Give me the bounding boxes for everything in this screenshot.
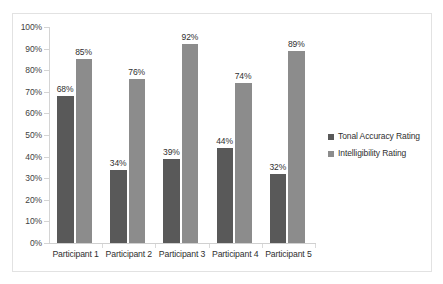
legend-label-intelligibility: Intelligibility Rating: [338, 149, 406, 158]
bar-value-participant-1-tonal-accuracy: 68%: [51, 85, 79, 94]
plot-area: 68% 85% 34% 76% 39% 92% 44% 74%: [49, 27, 315, 243]
bar-group-participant-2: 34% 76%: [102, 27, 155, 243]
y-axis-label-70: 70%: [0, 88, 42, 97]
y-axis-labels: 100% 90% 80% 70% 60% 50% 40% 30% 20% 10%…: [0, 0, 42, 284]
legend-swatch-icon-intelligibility: [328, 151, 334, 157]
y-axis-label-0: 0%: [0, 239, 42, 248]
y-axis-label-40: 40%: [0, 153, 42, 162]
bar-value-participant-1-intelligibility: 85%: [70, 48, 98, 57]
x-axis-label-participant-4: Participant 4: [209, 247, 262, 261]
bar-value-participant-3-intelligibility: 92%: [176, 33, 204, 42]
x-axis-label-participant-1: Participant 1: [49, 247, 102, 261]
bar-group-participant-1: 68% 85%: [49, 27, 102, 243]
y-axis-label-80: 80%: [0, 66, 42, 75]
bar-participant-4-intelligibility[interactable]: [235, 83, 252, 243]
y-axis-label-50: 50%: [0, 131, 42, 140]
bar-group-participant-5: 32% 89%: [262, 27, 315, 243]
x-axis-line: [49, 243, 316, 244]
x-axis-labels: Participant 1 Participant 2 Participant …: [49, 247, 316, 263]
bar-participant-2-tonal-accuracy[interactable]: [110, 170, 127, 243]
bar-value-participant-2-intelligibility: 76%: [123, 68, 151, 77]
y-axis-label-90: 90%: [0, 45, 42, 54]
bar-value-participant-4-intelligibility: 74%: [229, 72, 257, 81]
x-axis-label-participant-5: Participant 5: [262, 247, 315, 261]
bar-participant-5-intelligibility[interactable]: [288, 51, 305, 243]
x-axis-label-participant-3: Participant 3: [155, 247, 208, 261]
bar-participant-4-tonal-accuracy[interactable]: [217, 148, 234, 243]
bar-participant-1-tonal-accuracy[interactable]: [57, 96, 74, 243]
y-axis-label-10: 10%: [0, 217, 42, 226]
y-axis-label-30: 30%: [0, 174, 42, 183]
y-axis-label-60: 60%: [0, 109, 42, 118]
bar-chart-figure: 100% 90% 80% 70% 60% 50% 40% 30% 20% 10%…: [0, 0, 443, 284]
bar-participant-5-tonal-accuracy[interactable]: [270, 174, 287, 243]
legend-item-tonal-accuracy[interactable]: Tonal Accuracy Rating: [328, 128, 432, 145]
bar-value-participant-2-tonal-accuracy: 34%: [104, 159, 132, 168]
bar-group-participant-3: 39% 92%: [155, 27, 208, 243]
legend-item-intelligibility[interactable]: Intelligibility Rating: [328, 145, 432, 162]
bar-group-participant-4: 44% 74%: [209, 27, 262, 243]
chart-legend: Tonal Accuracy Rating Intelligibility Ra…: [328, 128, 432, 162]
bar-participant-3-intelligibility[interactable]: [182, 44, 199, 243]
legend-swatch-icon-tonal-accuracy: [328, 134, 334, 140]
bar-value-participant-4-tonal-accuracy: 44%: [211, 137, 239, 146]
bar-value-participant-5-tonal-accuracy: 32%: [264, 163, 292, 172]
y-axis-label-20: 20%: [0, 196, 42, 205]
x-axis-label-participant-2: Participant 2: [102, 247, 155, 261]
bar-value-participant-5-intelligibility: 89%: [282, 40, 310, 49]
y-axis-label-100: 100%: [0, 23, 42, 32]
legend-label-tonal-accuracy: Tonal Accuracy Rating: [338, 132, 420, 141]
bar-participant-3-tonal-accuracy[interactable]: [163, 159, 180, 243]
bar-value-participant-3-tonal-accuracy: 39%: [157, 148, 185, 157]
